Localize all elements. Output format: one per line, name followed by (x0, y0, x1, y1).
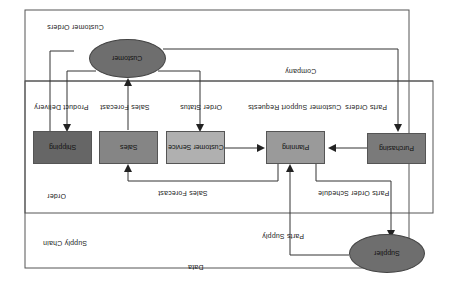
process-box-label: Purchasing (379, 145, 414, 152)
label-arrow-product-delivery: Product Delivery (34, 104, 89, 111)
process-box-label: Shipping (49, 144, 76, 151)
process-box-planning: Planning (266, 131, 325, 164)
process-box-shipping: Shipping (33, 131, 92, 164)
diagram-canvas: Customer Supplier Shipping Sales Custome… (0, 0, 467, 305)
process-box-label: Sales (120, 144, 138, 151)
label-arrow-order-status: Order Status (180, 104, 222, 111)
label-arrow-sales-forecast-bottom: Sales Forecast (158, 190, 208, 197)
label-arrow-customer-support: Customer Support Requests (248, 104, 341, 111)
ellipse-customer: Customer (89, 39, 166, 78)
label-arrow-parts-orders: Parts Orders (345, 104, 387, 111)
label-arrow-parts-order-schedule: Parts Order Schedule (318, 190, 389, 197)
label-arrow-sales-forecast: Sales Forecast (100, 104, 150, 111)
process-box-label: Planning (282, 144, 309, 151)
label-arrow-parts-supply: Parts Supply (262, 233, 304, 240)
ellipse-supplier: Supplier (349, 234, 425, 273)
process-box-purchasing: Purchasing (367, 133, 426, 164)
ellipse-supplier-label: Supplier (374, 250, 400, 257)
label-supply-chain: Supply Chain (43, 240, 87, 247)
label-order-lane: Order (47, 193, 66, 200)
ellipse-customer-label: Customer (112, 55, 142, 62)
label-company: Company (285, 68, 316, 75)
process-box-sales: Sales (99, 131, 158, 164)
process-box-label: Customer Service (168, 144, 224, 151)
process-box-customer-service: Customer Service (166, 131, 225, 164)
label-data: Data (188, 264, 204, 271)
label-customer-orders: Customer Orders (47, 24, 104, 31)
